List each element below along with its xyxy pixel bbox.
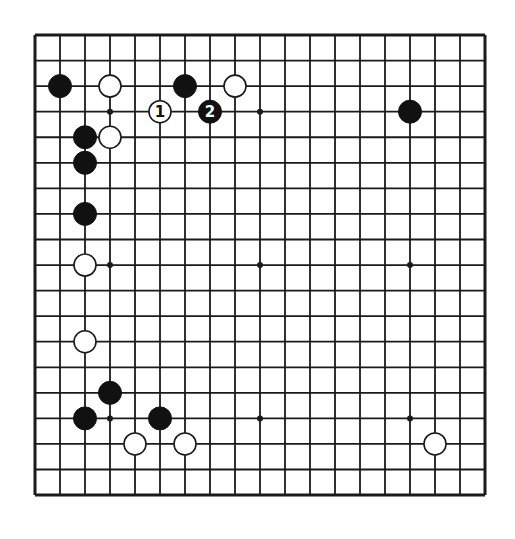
black-stone bbox=[74, 126, 97, 149]
move-number-label: 1 bbox=[155, 103, 165, 121]
black-stone bbox=[74, 407, 97, 430]
black-stone bbox=[149, 407, 172, 430]
black-stone bbox=[49, 75, 72, 98]
white-stone bbox=[99, 75, 121, 97]
black-stone bbox=[174, 75, 197, 98]
white-stone: 1 bbox=[149, 101, 171, 123]
move-number-label: 2 bbox=[205, 103, 215, 121]
black-stone bbox=[74, 202, 97, 225]
white-stone bbox=[124, 433, 146, 455]
black-stone bbox=[99, 381, 122, 404]
star-point bbox=[107, 262, 113, 268]
star-point bbox=[257, 415, 263, 421]
star-point bbox=[107, 109, 113, 115]
black-stone bbox=[74, 151, 97, 174]
white-stone bbox=[424, 433, 446, 455]
star-point bbox=[257, 109, 263, 115]
star-point bbox=[407, 415, 413, 421]
star-point bbox=[107, 415, 113, 421]
black-stone bbox=[399, 100, 422, 123]
black-stone: 2 bbox=[199, 100, 222, 123]
white-stone bbox=[99, 126, 121, 148]
white-stone bbox=[74, 331, 96, 353]
star-point bbox=[407, 262, 413, 268]
white-stone bbox=[224, 75, 246, 97]
white-stone bbox=[174, 433, 196, 455]
star-point bbox=[257, 262, 263, 268]
go-board: 12 bbox=[0, 0, 515, 539]
white-stone bbox=[74, 254, 96, 276]
